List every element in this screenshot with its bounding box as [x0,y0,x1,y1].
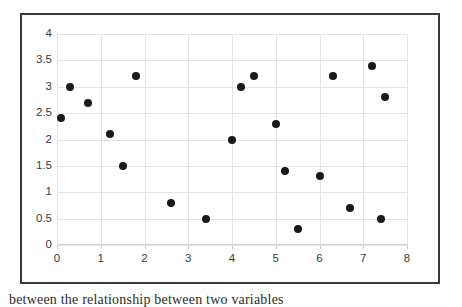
caption-text: between the relationship between two var… [9,292,284,307]
x-axis-tick-labels: 012345678 [57,253,407,267]
data-point [119,162,127,170]
data-point [346,204,354,212]
x-tick-mark [101,245,102,249]
data-point [272,120,280,128]
data-point [167,199,175,207]
data-point [377,215,385,223]
gridline-vertical [320,34,321,245]
data-point [202,215,210,223]
data-point [294,225,302,233]
data-point [57,114,65,122]
data-point [316,172,324,180]
x-tick-label: 7 [360,253,366,265]
y-tick-label: 2 [46,134,52,146]
data-point [329,72,337,80]
y-tick-label: 1 [46,187,52,199]
data-point [237,83,245,91]
x-tick-mark [145,245,146,249]
data-point [84,99,92,107]
y-tick-label: 3 [46,81,52,93]
x-tick-label: 5 [273,253,279,265]
data-point [106,130,114,138]
x-tick-mark [188,245,189,249]
data-point [228,136,236,144]
gridline-vertical [57,34,58,245]
y-tick-label: 1.5 [36,160,52,172]
x-tick-label: 4 [229,253,235,265]
data-point [381,93,389,101]
x-tick-label: 3 [185,253,191,265]
gridline-vertical [145,34,146,245]
x-tick-label: 0 [54,253,60,265]
scatter-chart: 00.511.522.533.54 012345678 [22,15,438,282]
gridline-vertical [363,34,364,245]
data-point [250,72,258,80]
gridline-vertical [188,34,189,245]
data-point [368,62,376,70]
x-tick-label: 8 [404,253,410,265]
y-tick-label: 2.5 [36,107,52,119]
y-tick-label: 0 [46,239,52,251]
y-tick-label: 0.5 [36,213,52,225]
x-tick-mark [407,245,408,249]
x-tick-label: 2 [141,253,147,265]
y-tick-label: 3.5 [36,55,52,67]
x-tick-mark [57,245,58,249]
gridline-vertical [101,34,102,245]
x-tick-mark [320,245,321,249]
x-tick-mark [363,245,364,249]
gridline-vertical [276,34,277,245]
y-axis-tick-labels: 00.511.522.533.54 [22,34,52,245]
figure-frame: 00.511.522.533.54 012345678 [20,13,440,284]
x-tick-label: 6 [316,253,322,265]
data-point [281,167,289,175]
x-tick-mark [232,245,233,249]
x-tick-mark [276,245,277,249]
y-tick-label: 4 [46,28,52,40]
x-tick-label: 1 [98,253,104,265]
data-point [66,83,74,91]
plot-region [57,34,407,245]
gridline-vertical [407,34,408,245]
data-point [132,72,140,80]
